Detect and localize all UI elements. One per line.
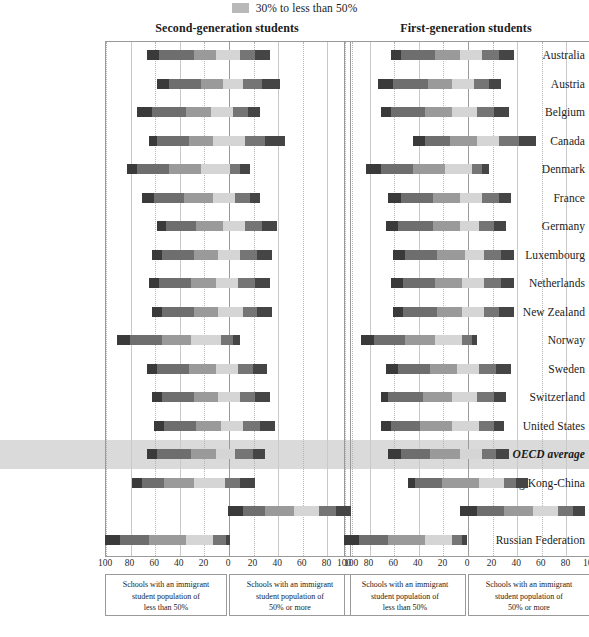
- axis-tick-label: 80: [561, 558, 571, 568]
- bar-segment: [452, 79, 474, 89]
- bar-segment: [240, 392, 255, 402]
- bar-segment: [428, 79, 453, 89]
- stacked-bar: [152, 392, 270, 402]
- bar-segment: [494, 421, 504, 431]
- bar-segment: [159, 50, 193, 60]
- bar-segment: [152, 392, 162, 402]
- bar-segment: [386, 221, 398, 231]
- axis-tick-label: 100: [337, 558, 351, 568]
- axis-tick-label: 60: [149, 558, 159, 568]
- bar-segment: [218, 307, 243, 317]
- stacked-bar: [388, 193, 511, 203]
- bar-segment: [398, 221, 432, 231]
- stacked-bar: [149, 136, 284, 146]
- bar-segment: [213, 193, 235, 203]
- bar-segment: [137, 164, 169, 174]
- bar-segment: [474, 79, 489, 89]
- bar-segment: [433, 193, 460, 203]
- stacked-bar: [149, 278, 270, 288]
- stacked-bar: [381, 421, 504, 431]
- stacked-bar: [393, 250, 514, 260]
- bar-segment: [255, 392, 270, 402]
- axis-tick-label: 100: [98, 558, 112, 568]
- bar-segment: [460, 449, 482, 459]
- bar-segment: [374, 335, 406, 345]
- caption-line: student population of: [345, 591, 465, 603]
- axis-tick-label: 20: [199, 558, 209, 568]
- bar-segment: [201, 79, 223, 89]
- bar-segment: [117, 335, 129, 345]
- bar-segment: [164, 421, 196, 431]
- bar-segment: [494, 221, 506, 231]
- bar-segment: [218, 250, 240, 260]
- bar-segment: [201, 164, 231, 174]
- bar-segment: [501, 278, 513, 288]
- bar-segment: [425, 107, 452, 117]
- chart-row: Sweden: [0, 355, 589, 384]
- axis-tick-label: 60: [388, 558, 398, 568]
- legend-swatch-icon: [232, 3, 249, 13]
- panel-title-second-generation: Second-generation students: [104, 21, 350, 36]
- bar-segment: [147, 364, 157, 374]
- bar-segment: [149, 136, 156, 146]
- bar-segment: [388, 193, 400, 203]
- bar-segment: [152, 107, 186, 117]
- bar-segment: [240, 478, 255, 488]
- stacked-bar: [147, 50, 270, 60]
- bar-segment: [162, 392, 194, 402]
- bar-segment: [152, 307, 162, 317]
- bar-segment: [573, 506, 585, 516]
- bar-segment: [233, 107, 248, 117]
- chart-row: Germany: [0, 212, 589, 241]
- bar-segment: [403, 307, 437, 317]
- bar-segment: [479, 364, 496, 374]
- bar-segment: [149, 535, 186, 545]
- stacked-bar: [378, 79, 501, 89]
- bar-segment: [257, 250, 272, 260]
- bar-segment: [558, 506, 573, 516]
- bar-segment: [401, 449, 431, 459]
- bar-segment: [216, 364, 238, 374]
- axis-tick-label: 0: [465, 558, 470, 568]
- bar-segment: [482, 50, 499, 60]
- bar-segment: [169, 164, 201, 174]
- bar-segment: [423, 392, 453, 402]
- x-axis-second-generation: 10080604020020406080100: [105, 558, 351, 572]
- bar-segment: [479, 221, 494, 231]
- chart-row: Switzerland: [0, 383, 589, 412]
- bar-segment: [225, 478, 240, 488]
- bar-segment: [425, 136, 450, 146]
- axis-tick-label: 80: [364, 558, 374, 568]
- chart-row: United States: [0, 412, 589, 441]
- bar-segment: [157, 221, 167, 231]
- bar-segment: [243, 79, 263, 89]
- bar-segment: [255, 50, 270, 60]
- caption-line: student population of: [469, 591, 589, 603]
- stacked-bar: [147, 364, 268, 374]
- bar-segment: [516, 478, 528, 488]
- bar-segment: [359, 535, 389, 545]
- chart-row: OECD average: [0, 440, 589, 469]
- bar-segment: [465, 250, 485, 260]
- bar-segment: [366, 164, 381, 174]
- axis-tick-label: 20: [248, 558, 258, 568]
- bar-segment: [194, 478, 226, 488]
- bar-segment: [243, 421, 260, 431]
- bar-segment: [213, 535, 225, 545]
- stacked-bar: [388, 449, 509, 459]
- country-label: Denmark: [483, 155, 585, 184]
- bar-segment: [425, 535, 452, 545]
- bar-segment: [401, 50, 435, 60]
- caption-line: Schools with an immigrant: [106, 579, 226, 591]
- bar-segment: [405, 335, 435, 345]
- bar-segment: [194, 307, 219, 317]
- stacked-bar: [157, 221, 278, 231]
- bar-segment: [127, 164, 137, 174]
- bar-segment: [420, 421, 452, 431]
- chart-row: Russian Federation: [0, 526, 589, 555]
- chart-row: Austria: [0, 70, 589, 99]
- axis-tick-label: 40: [272, 558, 282, 568]
- bar-segment: [450, 136, 477, 146]
- legend-label: 30% to less than 50%: [256, 2, 358, 14]
- bar-segment: [405, 250, 437, 260]
